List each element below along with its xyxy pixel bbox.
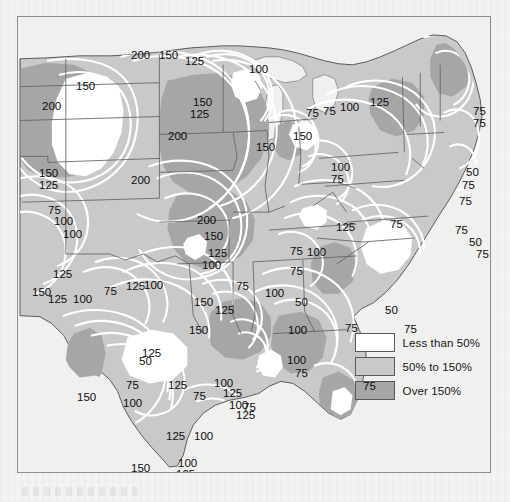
contour-value-label: 50	[385, 305, 398, 317]
contour-value-label: 100	[490, 61, 491, 73]
legend-label-less-than-50: Less than 50%	[403, 337, 480, 349]
contour-value-label: 75	[236, 281, 249, 293]
contour-value-label: 150	[76, 81, 95, 93]
contour-value-label: 100	[73, 294, 92, 306]
contour-value-label: 125	[336, 222, 355, 234]
contour-value-label: 50	[469, 237, 482, 249]
contour-value-label: 125	[185, 56, 204, 68]
map-figure-frame: Less than 50% 50% to 150% Over 150% 2001…	[17, 16, 491, 473]
contour-value-label: 75	[193, 391, 206, 403]
contour-value-label: 150	[159, 50, 178, 62]
contour-value-label: 200	[168, 131, 187, 143]
contour-value-label: 50	[466, 167, 479, 179]
contour-value-label: 100	[265, 288, 284, 300]
contour-value-label: 200	[197, 215, 216, 227]
contour-value-label: 75	[323, 106, 336, 118]
contour-value-label: 150	[193, 97, 212, 109]
contour-value-label: 75	[126, 380, 139, 392]
contour-value-label: 150	[293, 131, 312, 143]
contour-value-label: 100	[490, 48, 491, 60]
contour-value-label: 100	[54, 216, 73, 228]
contour-value-label: 100	[340, 102, 359, 114]
contour-value-label: 100	[194, 431, 213, 443]
contour-value-label: 75	[295, 368, 308, 380]
contour-value-label: 150	[204, 231, 223, 243]
contour-value-label: 125	[168, 380, 187, 392]
contour-value-label: 125	[166, 431, 185, 443]
contour-value-label: 150	[39, 168, 58, 180]
legend-swatch-50-to-150	[355, 357, 395, 376]
contour-value-label: 50	[139, 356, 152, 368]
contour-value-label: 75	[455, 225, 468, 237]
contour-value-label: 150	[189, 325, 208, 337]
legend-label-50-to-150: 50% to 150%	[403, 361, 473, 373]
legend-label-over-150: Over 150%	[403, 385, 461, 397]
contour-value-label: 100	[144, 280, 163, 292]
contour-value-label: 125	[176, 469, 195, 473]
contour-value-label: 200	[42, 101, 61, 113]
contour-value-label: 150	[256, 142, 275, 154]
contour-value-label: 150	[131, 463, 150, 473]
contour-value-label: 150	[194, 297, 213, 309]
contour-value-label: 75	[476, 249, 489, 261]
contour-value-label: 75	[459, 196, 472, 208]
contour-value-label: 125	[190, 109, 209, 121]
contour-value-label: 75	[290, 246, 303, 258]
contour-value-label: 100	[202, 260, 221, 272]
legend-row-50-to-150: 50% to 150%	[355, 357, 480, 376]
contour-value-label: 75	[290, 266, 303, 278]
contour-value-label: 100	[307, 247, 326, 259]
contour-value-label: 100	[123, 398, 142, 410]
contour-value-label: 125	[215, 305, 234, 317]
page-footer-bleedthrough	[22, 487, 142, 496]
legend-swatch-less-than-50	[355, 333, 395, 352]
contour-value-label: 125	[370, 97, 389, 109]
contour-value-label: 100	[287, 355, 306, 367]
contour-value-label: 100	[249, 64, 268, 76]
contour-value-label: 200	[131, 50, 150, 62]
contour-value-label: 150	[77, 392, 96, 404]
contour-value-label: 100	[331, 162, 350, 174]
contour-value-label: 125	[48, 294, 67, 306]
contour-value-label: 75	[473, 106, 486, 118]
contour-value-label: 125	[53, 269, 72, 281]
legend-row-less-than-50: Less than 50%	[355, 333, 480, 352]
contour-value-label: 200	[131, 175, 150, 187]
contour-value-label: 125	[126, 281, 145, 293]
contour-value-label: 75	[243, 402, 256, 414]
contour-value-label: 125	[39, 180, 58, 192]
contour-value-label: 75	[390, 219, 403, 231]
contour-value-label: 75	[345, 323, 358, 335]
contour-value-label: 75	[473, 118, 486, 130]
contour-value-label: 125	[208, 248, 227, 260]
contour-value-label: 50	[295, 297, 308, 309]
contour-value-label: 75	[331, 174, 344, 186]
contour-value-label: 75	[104, 286, 117, 298]
contour-value-label: 125	[223, 388, 242, 400]
contour-value-label: 75	[306, 108, 319, 120]
contour-value-label: 100	[63, 229, 82, 241]
contour-value-label: 100	[288, 325, 307, 337]
contour-value-label: 75	[363, 381, 376, 393]
contour-value-label: 75	[404, 324, 417, 336]
contour-value-label: 75	[462, 180, 475, 192]
